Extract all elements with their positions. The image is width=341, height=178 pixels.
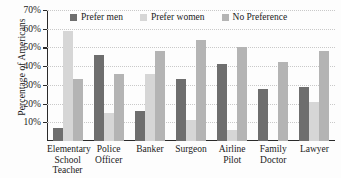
bar — [104, 113, 114, 141]
bar — [319, 51, 329, 141]
bar — [299, 87, 309, 141]
plot-area: 70%60%50%40%30%20%10% — [47, 10, 335, 141]
bar — [217, 64, 227, 141]
bar — [145, 74, 155, 141]
bar — [63, 31, 73, 141]
legend-label: Prefer women — [151, 12, 205, 22]
bar — [94, 55, 104, 141]
bar — [73, 79, 83, 141]
bar — [237, 47, 247, 141]
x-axis-label: Surgeon — [170, 144, 211, 155]
y-tick-label: 10% — [24, 117, 41, 127]
bar — [155, 51, 165, 141]
bar-group — [88, 10, 129, 141]
y-tick-label: 40% — [24, 61, 41, 71]
bar-chart: Percentage of Americans 70%60%50%40%30%2… — [0, 0, 341, 178]
bar-group — [47, 10, 88, 141]
x-axis-label: PoliceOfficer — [88, 144, 129, 165]
bars-layer — [47, 10, 335, 141]
legend-label: Prefer men — [81, 12, 123, 22]
x-axis-label: Banker — [129, 144, 170, 155]
bar-group — [294, 10, 335, 141]
legend-swatch-icon — [70, 14, 77, 21]
bar — [53, 128, 63, 141]
x-axis-label: Lawyer — [294, 144, 335, 155]
bar — [135, 111, 145, 141]
legend-label: No Preference — [233, 12, 288, 22]
y-tick-label: 70% — [24, 5, 41, 15]
legend-item: Prefer men — [70, 12, 123, 22]
x-axis-label: FamilyDoctor — [253, 144, 294, 165]
legend-swatch-icon — [140, 14, 147, 21]
bar — [114, 74, 124, 141]
bar-group — [253, 10, 294, 141]
x-axis-label: AirlinePilot — [212, 144, 253, 165]
bar — [196, 40, 206, 141]
bar — [278, 62, 288, 141]
bar — [309, 102, 319, 141]
bar — [176, 79, 186, 141]
chart-legend: Prefer menPrefer womenNo Preference — [70, 12, 287, 22]
bar — [258, 89, 268, 141]
bar — [227, 130, 237, 141]
x-axis-labels: ElementarySchoolTeacherPoliceOfficerBank… — [47, 144, 335, 178]
y-tick-label: 30% — [24, 80, 41, 90]
legend-item: Prefer women — [140, 12, 205, 22]
legend-item: No Preference — [222, 12, 288, 22]
y-tick-label: 60% — [24, 24, 41, 34]
x-axis-label: ElementarySchoolTeacher — [47, 144, 88, 176]
bar-group — [212, 10, 253, 141]
y-tick-label: 20% — [24, 99, 41, 109]
bar — [186, 120, 196, 141]
bar-group — [170, 10, 211, 141]
legend-swatch-icon — [222, 14, 229, 21]
y-tick-label: 50% — [24, 42, 41, 52]
bar-group — [129, 10, 170, 141]
